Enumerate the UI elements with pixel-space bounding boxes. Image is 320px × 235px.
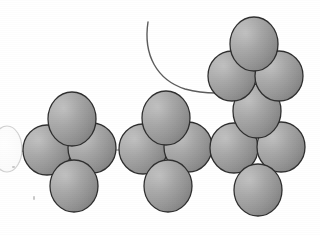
speck-1: scan speck lower left: [33, 196, 35, 200]
c1-top-sheen: [49, 93, 96, 146]
c2-bottom-sheen: [145, 161, 192, 212]
c3-bottom-sphere: cluster 3 bottom sphere: [234, 164, 282, 216]
c1-bottom-sphere: cluster 1 bottom sphere: [50, 160, 98, 212]
figure-root: Space-filling sphere chain diagram Three…: [0, 0, 320, 235]
sphere-chain-figure: Space-filling sphere chain diagram Three…: [0, 0, 320, 235]
c1-top-sphere: cluster 1 top sphere: [48, 92, 96, 146]
c4-top-sheen: [231, 18, 278, 71]
c4-top-sphere: upper cluster top sphere: [230, 17, 278, 71]
c2-top-sphere: cluster 2 top sphere: [142, 91, 190, 145]
c1-bottom-sheen: [51, 161, 98, 212]
c2-top-sheen: [143, 92, 190, 145]
speck-2: scan speck left margin: [12, 166, 15, 168]
c2-bottom-sphere: cluster 2 bottom sphere: [144, 160, 192, 212]
c3-bottom-sheen: [235, 165, 282, 216]
